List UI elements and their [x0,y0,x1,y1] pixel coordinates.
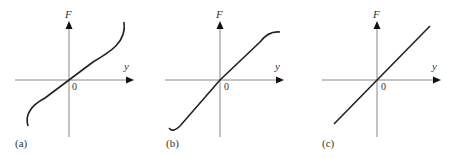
graph-b [150,0,302,157]
panel-label: (c) [322,137,334,149]
origin-label: 0 [72,81,77,92]
x-axis-label: y [275,60,280,72]
graph-c [296,0,456,157]
y-axis-label: F [65,8,72,20]
panel-c: F y 0 (c) [296,0,448,157]
graph-a [0,0,152,157]
panel-label: (b) [166,137,179,149]
x-axis-label: y [124,60,129,72]
panel-b: F y 0 (b) [150,0,302,157]
panel-a: F y 0 (a) [0,0,152,157]
y-axis-label: F [373,8,380,20]
origin-label: 0 [381,81,386,92]
y-axis-label: F [216,8,223,20]
origin-label: 0 [224,81,229,92]
x-axis-label: y [432,60,437,72]
panel-label: (a) [15,137,27,149]
